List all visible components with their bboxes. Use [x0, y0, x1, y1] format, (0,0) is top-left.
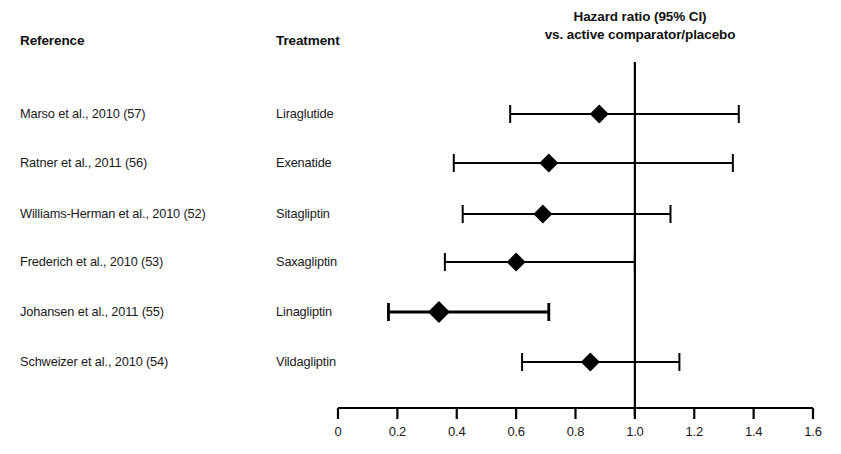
forest-plot-canvas — [0, 0, 841, 454]
x-axis-tick-label: 1.2 — [674, 424, 714, 439]
hazard-ratio-diamond-marker — [539, 154, 558, 173]
x-axis-tick-label: 0.4 — [437, 424, 477, 439]
hazard-ratio-diamond-marker — [507, 253, 526, 272]
hazard-ratio-diamond-marker — [590, 105, 609, 124]
x-axis-tick-label: 0.6 — [496, 424, 536, 439]
hazard-ratio-diamond-marker — [581, 353, 600, 372]
forest-plot-figure: Reference Treatment Hazard ratio (95% CI… — [0, 0, 841, 454]
x-axis-tick-label: 1.6 — [793, 424, 833, 439]
hazard-ratio-diamond-marker — [428, 301, 450, 323]
x-axis-tick-label: 1.0 — [615, 424, 655, 439]
x-axis-tick-label: 1.4 — [734, 424, 774, 439]
hazard-ratio-diamond-marker — [533, 205, 552, 224]
x-axis-tick-label: 0.2 — [377, 424, 417, 439]
x-axis-tick-label: 0.8 — [556, 424, 596, 439]
x-axis-tick-label: 0 — [318, 424, 358, 439]
